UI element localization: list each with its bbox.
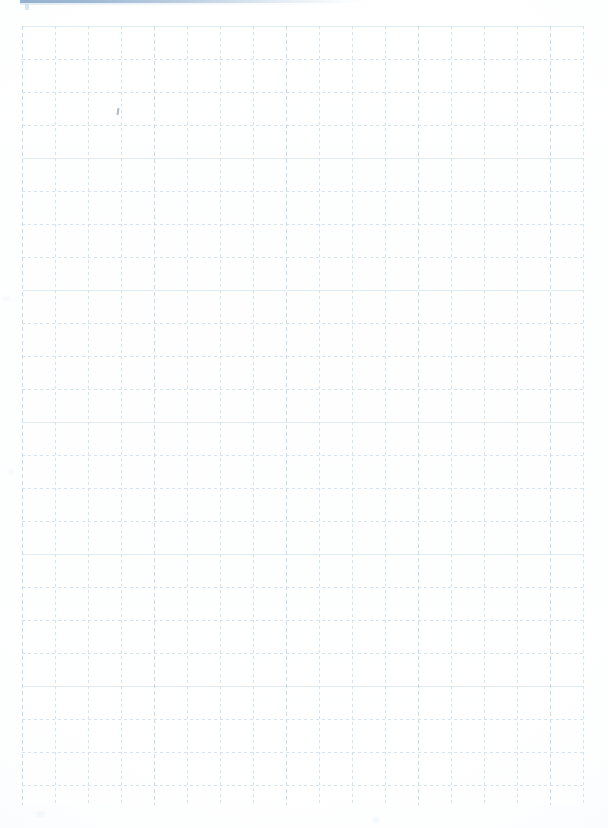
grid-line-vertical (22, 26, 23, 805)
grid-line-horizontal (22, 653, 584, 654)
grid-line-horizontal (22, 191, 584, 192)
grid-line-vertical (55, 26, 56, 805)
grid-line-vertical (253, 26, 254, 805)
grid-line-horizontal (22, 356, 584, 357)
grid-line-vertical (154, 26, 155, 805)
scan-smudge (36, 812, 45, 816)
grid-line-horizontal (22, 620, 584, 621)
grid-line-vertical (550, 26, 551, 805)
grid-line-horizontal (22, 686, 584, 687)
grid-line-horizontal (22, 290, 584, 291)
grid-line-horizontal (22, 488, 584, 489)
grid-line-horizontal (22, 521, 584, 522)
grid-line-horizontal (22, 389, 584, 390)
document-page (0, 0, 608, 828)
graph-paper-grid (22, 26, 584, 805)
grid-line-horizontal (22, 752, 584, 753)
grid-line-vertical (418, 26, 419, 805)
grid-line-vertical (220, 26, 221, 805)
top-blue-rule-shadow (20, 3, 350, 5)
grid-line-vertical (319, 26, 320, 805)
grid-line-horizontal (22, 587, 584, 588)
grid-line-horizontal (22, 59, 584, 60)
grid-line-horizontal (22, 323, 584, 324)
grid-line-horizontal (22, 455, 584, 456)
scan-smudge (8, 470, 14, 473)
grid-line-vertical (484, 26, 485, 805)
grid-line-horizontal (22, 785, 584, 786)
grid-line-horizontal (22, 224, 584, 225)
grid-line-vertical (187, 26, 188, 805)
grid-line-vertical (451, 26, 452, 805)
grid-line-vertical (88, 26, 89, 805)
grid-line-vertical (121, 26, 122, 805)
grid-line-vertical (286, 26, 287, 805)
grid-line-vertical (385, 26, 386, 805)
grid-line-horizontal (22, 158, 584, 159)
scan-smudge (3, 297, 10, 300)
grid-line-vertical (583, 26, 584, 805)
grid-wash (22, 26, 584, 805)
grid-line-horizontal (22, 554, 584, 555)
grid-line-horizontal (22, 26, 584, 27)
grid-line-horizontal (22, 719, 584, 720)
grid-line-vertical (517, 26, 518, 805)
grid-line-horizontal (22, 422, 584, 423)
scan-smudge (372, 818, 380, 822)
grid-line-vertical (352, 26, 353, 805)
top-rule-speck-icon (25, 4, 29, 10)
grid-line-horizontal (22, 257, 584, 258)
grid-line-horizontal (22, 92, 584, 93)
grid-line-horizontal (22, 125, 584, 126)
